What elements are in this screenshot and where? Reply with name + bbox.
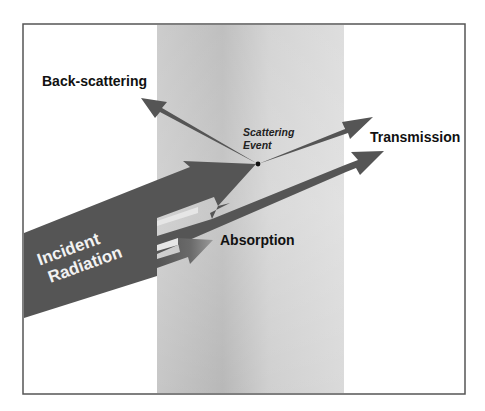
scattering-event-dot: [256, 162, 261, 167]
scattering-event-label-line2: Event: [243, 139, 272, 151]
transmission-label: Transmission: [370, 129, 460, 145]
scattering-event-label-line1: Scattering: [243, 126, 295, 138]
radiation-interaction-diagram: Back-scattering Scattering Event Transmi…: [0, 0, 485, 411]
back-scattering-label: Back-scattering: [42, 73, 147, 89]
absorption-label: Absorption: [220, 232, 295, 248]
